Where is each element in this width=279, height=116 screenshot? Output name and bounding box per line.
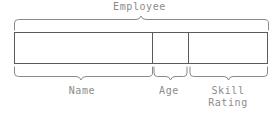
field-label-skill-rating: Skill Rating (188, 85, 268, 109)
group-brace-employee (15, 16, 269, 30)
record-box (15, 33, 268, 64)
record-layout-diagram: Employee Name Age Skill Rating (0, 0, 279, 116)
field-label-age: Age (150, 85, 188, 97)
field-brace-name (15, 67, 153, 80)
field-label-name: Name (14, 85, 150, 97)
field-brace-age (154, 67, 187, 80)
field-brace-skill-rating (190, 67, 268, 80)
group-label-employee: Employee (0, 1, 279, 13)
